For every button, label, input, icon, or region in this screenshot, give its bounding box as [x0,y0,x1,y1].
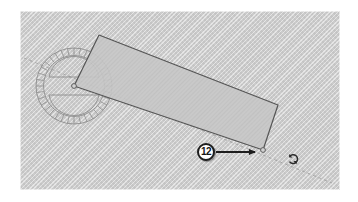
callout-badge-12[interactable]: 12 [197,143,215,161]
modeling-viewport[interactable]: 12 [20,11,340,190]
callout-badge-label: 12 [201,147,211,157]
screenshot-root: 12 [0,0,358,202]
rotate-cursor-layer [20,11,340,190]
rotate-cursor-icon [289,154,297,164]
